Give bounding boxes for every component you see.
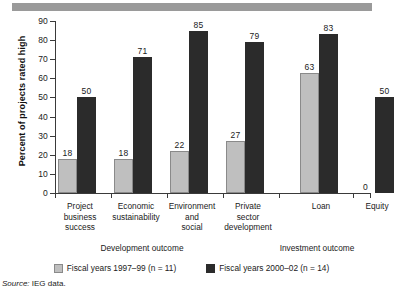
group-bracket: Investment outcome <box>264 243 370 255</box>
group-bracket: Development outcome <box>58 243 226 255</box>
x-category-label: Projectbusinesssuccess <box>50 201 110 233</box>
x-tick-mark <box>223 193 224 198</box>
x-category-label-line: social <box>162 222 222 233</box>
y-tick-label: 50 <box>22 92 48 102</box>
x-category-label-line: business <box>50 212 110 223</box>
bar <box>133 57 152 193</box>
legend-label: Fiscal years 1997–99 (n = 11) <box>67 263 176 273</box>
x-category-label-line: Economic <box>106 201 166 212</box>
y-tick-label: 90 <box>22 16 48 26</box>
x-category-label: Loan <box>291 201 351 212</box>
x-category-label-line: development <box>218 222 278 233</box>
x-category-label: Economicsustainability <box>106 201 166 222</box>
legend-swatch <box>206 264 215 273</box>
x-category-label-line: Project <box>50 201 110 212</box>
bar <box>114 159 133 193</box>
bracket-label: Development outcome <box>95 243 188 253</box>
legend-label: Fiscal years 2000–02 (n = 14) <box>219 263 329 273</box>
y-tick-label: 0 <box>22 188 48 198</box>
bracket-label-wrap: Investment outcome <box>264 243 370 253</box>
y-tick-label: 20 <box>22 150 48 160</box>
legend-item[interactable]: Fiscal years 1997–99 (n = 11) <box>54 263 176 273</box>
bar <box>319 34 338 193</box>
x-tick-mark <box>279 193 280 198</box>
header-rule <box>12 3 372 11</box>
legend-swatch <box>54 264 63 273</box>
x-category-label-line: Equity <box>347 201 398 212</box>
x-category-label-line: sustainability <box>106 212 166 223</box>
x-category-label-line: success <box>50 222 110 233</box>
y-tick-label: 10 <box>22 169 48 179</box>
bar <box>226 141 245 193</box>
legend-item[interactable]: Fiscal years 2000–02 (n = 14) <box>206 263 329 273</box>
source-text: IEG data. <box>32 279 66 288</box>
x-category-label-line: sector <box>218 212 278 223</box>
bar <box>58 159 77 193</box>
bar-value-label: 79 <box>241 31 268 41</box>
source-label: Source: <box>2 279 30 288</box>
bar-value-label: 71 <box>129 46 156 56</box>
x-category-label: Privatesectordevelopment <box>218 201 278 233</box>
x-tick-mark <box>370 193 371 198</box>
x-category-label: Environmentandsocial <box>162 201 222 233</box>
source-note: Source: IEG data. <box>2 279 66 288</box>
bracket-label: Investment outcome <box>275 243 360 253</box>
bar <box>245 42 264 193</box>
chart-legend: Fiscal years 1997–99 (n = 11)Fiscal year… <box>0 263 383 273</box>
y-tick-label: 80 <box>22 35 48 45</box>
bar-value-label: 50 <box>73 86 100 96</box>
y-tick-label: 70 <box>22 54 48 64</box>
x-tick-mark <box>111 193 112 198</box>
x-category-label-line: Environment <box>162 201 222 212</box>
x-category-label-line: Private <box>218 201 278 212</box>
bar-value-label: 83 <box>315 23 342 33</box>
bar <box>170 151 189 193</box>
x-category-label-line: and <box>162 212 222 223</box>
y-tick-label: 60 <box>22 73 48 83</box>
x-tick-mark <box>55 193 56 198</box>
bar <box>300 73 319 193</box>
bar <box>77 97 96 193</box>
x-category-label-line: Loan <box>291 201 351 212</box>
y-tick-label: 40 <box>22 112 48 122</box>
bar-value-label: 50 <box>371 86 398 96</box>
bar <box>375 97 394 193</box>
bar <box>189 31 208 193</box>
plot-area: 18501871228527796383050 <box>55 21 370 193</box>
x-axis-line <box>55 193 371 194</box>
y-tick-label: 30 <box>22 131 48 141</box>
x-tick-mark <box>167 193 168 198</box>
x-tick-mark <box>353 193 354 198</box>
x-category-label: Equity <box>347 201 398 212</box>
bracket-label-wrap: Development outcome <box>58 243 226 253</box>
bar-value-label: 85 <box>185 20 212 30</box>
